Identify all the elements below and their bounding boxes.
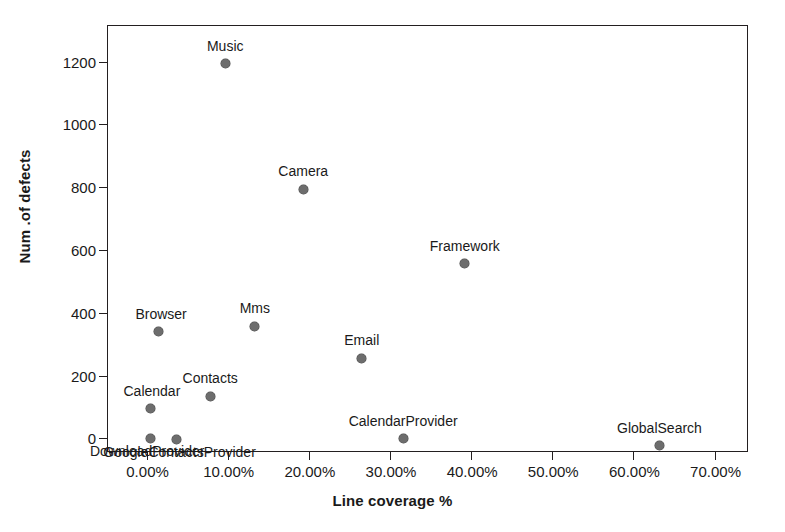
x-tick-mark xyxy=(390,452,391,460)
y-tick-mark xyxy=(99,438,107,439)
y-tick-label: 400 xyxy=(71,306,96,321)
data-point-label: CalendarProvider xyxy=(349,414,458,428)
y-tick-mark xyxy=(99,187,107,188)
y-tick-label: 200 xyxy=(71,369,96,384)
data-point-label: Music xyxy=(207,39,244,53)
data-point[interactable] xyxy=(146,404,155,413)
y-tick-mark xyxy=(99,62,107,63)
data-point[interactable] xyxy=(399,434,408,443)
data-point[interactable] xyxy=(206,392,215,401)
y-tick-mark xyxy=(99,124,107,125)
y-tick-mark xyxy=(99,250,107,251)
x-tick-mark xyxy=(633,452,634,460)
x-tick-mark xyxy=(715,452,716,460)
y-tick-label: 800 xyxy=(71,180,96,195)
x-tick-label: 70.00% xyxy=(666,464,766,479)
data-point[interactable] xyxy=(221,59,230,68)
x-axis-title: Line coverage % xyxy=(0,492,785,509)
data-point-label: Camera xyxy=(278,164,328,178)
y-tick-label: 1200 xyxy=(63,55,96,70)
scatter-plot-figure: Num .of defects Line coverage % 02004006… xyxy=(0,0,785,532)
y-tick-mark xyxy=(99,313,107,314)
data-point-label: Contacts xyxy=(183,371,238,385)
y-tick-label: 600 xyxy=(71,243,96,258)
data-point-label: Browser xyxy=(135,307,186,321)
data-point[interactable] xyxy=(655,441,664,450)
data-point[interactable] xyxy=(146,434,155,443)
x-tick-mark xyxy=(552,452,553,460)
data-point[interactable] xyxy=(299,185,308,194)
x-tick-mark xyxy=(309,452,310,460)
y-tick-label: 1000 xyxy=(63,117,96,132)
data-point-label: Email xyxy=(344,333,379,347)
data-point-label: Framework xyxy=(430,239,500,253)
y-axis-title: Num .of defects xyxy=(16,117,33,297)
x-tick-mark xyxy=(471,452,472,460)
y-tick-mark xyxy=(99,376,107,377)
data-point-label: GoogleContactsProvider xyxy=(103,445,256,459)
data-point-label: Calendar xyxy=(124,384,181,398)
data-point-label: GlobalSearch xyxy=(617,421,702,435)
data-point-label: Mms xyxy=(240,301,270,315)
plot-area xyxy=(107,25,748,452)
